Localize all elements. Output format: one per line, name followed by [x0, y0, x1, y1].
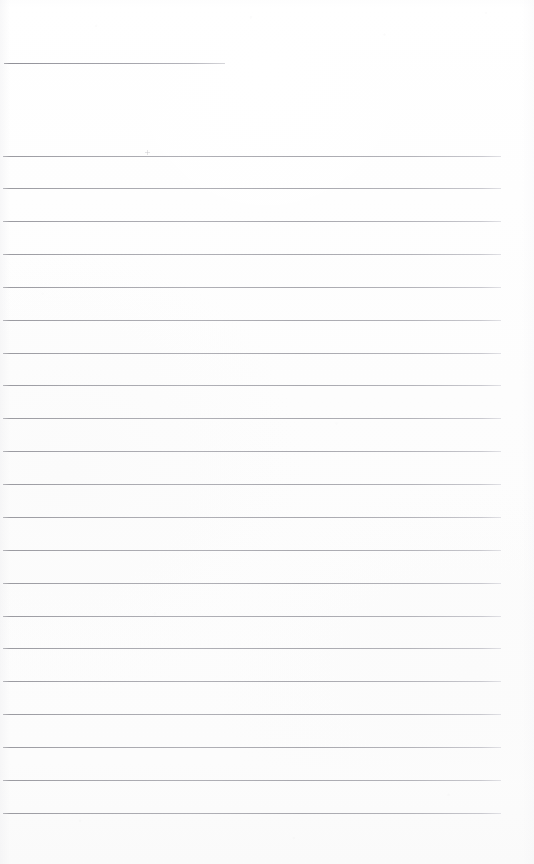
ruled-line — [3, 747, 501, 748]
heading-rule — [4, 63, 225, 64]
ruled-line — [3, 616, 501, 617]
ruled-line — [3, 780, 501, 781]
ruled-line — [3, 813, 501, 814]
ruled-line — [3, 156, 501, 157]
ruled-line — [3, 418, 501, 419]
ruled-line — [3, 550, 501, 551]
ruled-line — [3, 254, 501, 255]
ruled-line — [3, 681, 501, 682]
ruled-line — [3, 517, 501, 518]
scan-speck-artifact — [145, 150, 150, 155]
scanned-page — [0, 0, 534, 864]
ruled-line — [3, 714, 501, 715]
ruled-line — [3, 221, 501, 222]
ruled-line — [3, 353, 501, 354]
page-edge-vignette — [0, 0, 534, 864]
ruled-line — [3, 648, 501, 649]
ruled-line — [3, 320, 501, 321]
ruled-line — [3, 583, 501, 584]
ruled-line — [3, 287, 501, 288]
ruled-line — [3, 484, 501, 485]
ruled-line — [3, 188, 501, 189]
paper-grain-texture — [0, 0, 534, 864]
ruled-line — [3, 385, 501, 386]
ruled-line — [3, 451, 501, 452]
